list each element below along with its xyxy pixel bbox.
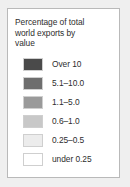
legend-swatch-icon	[23, 58, 43, 71]
legend-entry-label: under 0.25	[52, 155, 92, 164]
legend-entry: 0.25–0.5	[15, 131, 113, 150]
legend-entry-label: 0.25–0.5	[52, 136, 84, 145]
legend-entry: Over 10	[15, 55, 113, 74]
legend-swatch-icon	[23, 77, 43, 90]
legend-swatch-icon	[23, 153, 43, 166]
legend-entry-list: Over 10 5.1–10.0 1.1–5.0 0.6–1.0 0.25–0.…	[15, 55, 113, 169]
legend-entry-label: 1.1–5.0	[52, 98, 80, 107]
legend-entry: 0.6–1.0	[15, 112, 113, 131]
legend-title: Percentage of total world exports by val…	[15, 17, 113, 49]
legend-content: Percentage of total world exports by val…	[8, 9, 119, 173]
legend-swatch-icon	[23, 96, 43, 109]
map-legend-panel: Percentage of total world exports by val…	[7, 8, 120, 178]
legend-title-line-3: value	[15, 38, 35, 48]
legend-entry: 5.1–10.0	[15, 74, 113, 93]
legend-swatch-icon	[23, 134, 43, 147]
legend-entry: under 0.25	[15, 150, 113, 169]
legend-entry-label: Over 10	[52, 60, 81, 69]
legend-title-line-2: world exports by	[15, 28, 75, 38]
legend-title-line-1: Percentage of total	[15, 17, 84, 27]
legend-swatch-icon	[23, 115, 43, 128]
legend-entry-label: 0.6–1.0	[52, 117, 80, 126]
legend-entry-label: 5.1–10.0	[52, 79, 84, 88]
legend-entry: 1.1–5.0	[15, 93, 113, 112]
